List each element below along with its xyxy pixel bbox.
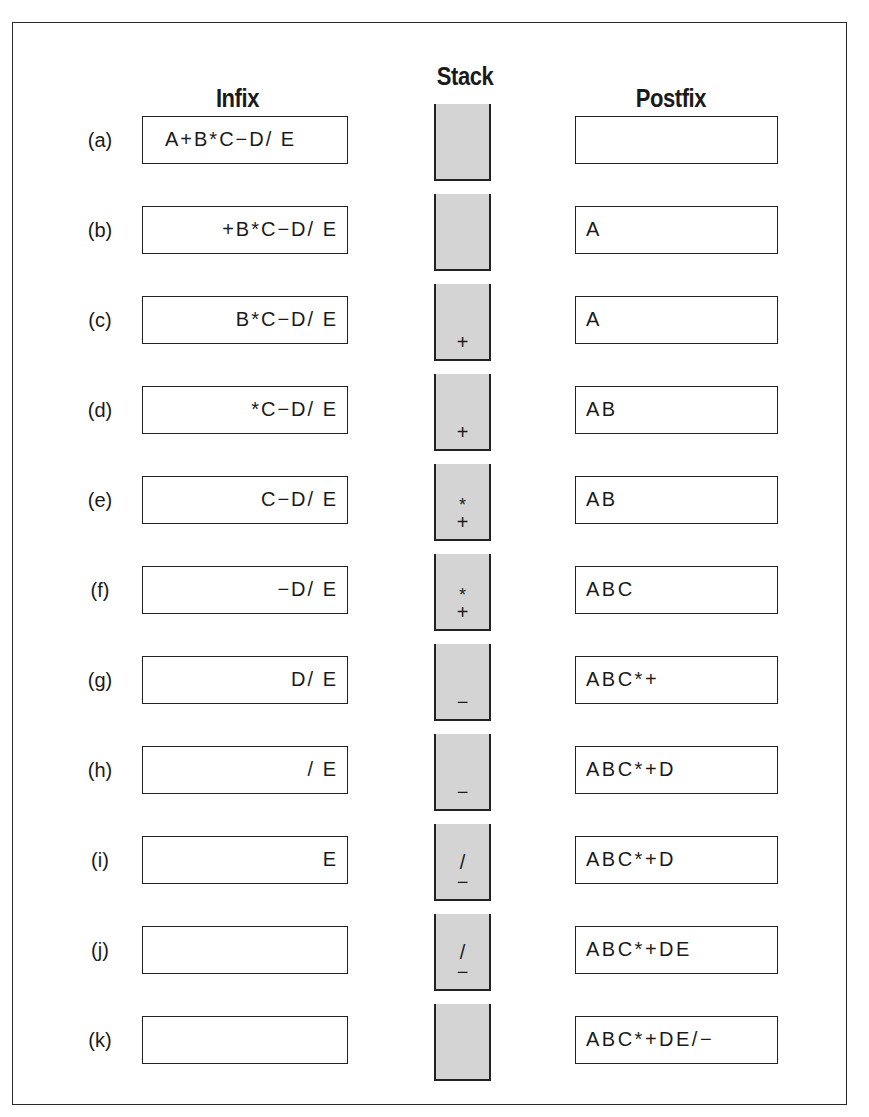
stack-container: *+ bbox=[434, 464, 491, 541]
postfix-box: AB bbox=[575, 476, 778, 524]
step-row: (h)/ E−ABC*+D bbox=[0, 746, 869, 794]
stack-item: / bbox=[460, 853, 466, 873]
infix-box: B*C−D/ E bbox=[142, 296, 348, 344]
stack-container: /− bbox=[434, 914, 491, 991]
infix-box bbox=[142, 926, 348, 974]
infix-box: *C−D/ E bbox=[142, 386, 348, 434]
step-row: (c)B*C−D/ E+A bbox=[0, 296, 869, 344]
stack-item: / bbox=[460, 943, 466, 963]
stack-item: + bbox=[457, 603, 469, 623]
postfix-box: A bbox=[575, 296, 778, 344]
step-label: (i) bbox=[80, 836, 120, 884]
stack-container: + bbox=[434, 374, 491, 451]
stack-column-header: Stack bbox=[437, 62, 494, 91]
postfix-box: ABC*+DE/− bbox=[575, 1016, 778, 1064]
step-row: (g)D/ E−ABC*+ bbox=[0, 656, 869, 704]
infix-box: / E bbox=[142, 746, 348, 794]
step-row: (a)A+B*C−D/ E bbox=[0, 116, 869, 164]
stack-item: − bbox=[457, 783, 469, 803]
stack-item: + bbox=[457, 513, 469, 533]
step-row: (e)C−D/ E*+AB bbox=[0, 476, 869, 524]
step-label: (f) bbox=[80, 566, 120, 614]
postfix-box bbox=[575, 116, 778, 164]
stack-item: + bbox=[457, 333, 469, 353]
postfix-box: ABC*+DE bbox=[575, 926, 778, 974]
stack-container bbox=[434, 104, 491, 181]
step-row: (d)*C−D/ E+AB bbox=[0, 386, 869, 434]
step-label: (e) bbox=[80, 476, 120, 524]
step-row: (k)ABC*+DE/− bbox=[0, 1016, 869, 1064]
stack-container bbox=[434, 194, 491, 271]
stack-item: − bbox=[457, 963, 469, 983]
stack-container bbox=[434, 1004, 491, 1081]
step-label: (d) bbox=[80, 386, 120, 434]
stack-item: − bbox=[457, 873, 469, 893]
step-row: (f)−D/ E*+ABC bbox=[0, 566, 869, 614]
stack-item: − bbox=[457, 693, 469, 713]
infix-box bbox=[142, 1016, 348, 1064]
stack-container: + bbox=[434, 284, 491, 361]
stack-item: + bbox=[457, 423, 469, 443]
infix-box: −D/ E bbox=[142, 566, 348, 614]
step-label: (k) bbox=[80, 1016, 120, 1064]
infix-box: E bbox=[142, 836, 348, 884]
infix-column-header: Infix bbox=[216, 84, 259, 113]
infix-box: D/ E bbox=[142, 656, 348, 704]
step-label: (a) bbox=[80, 116, 120, 164]
infix-box: +B*C−D/ E bbox=[142, 206, 348, 254]
postfix-box: ABC bbox=[575, 566, 778, 614]
stack-container: *+ bbox=[434, 554, 491, 631]
postfix-column-header: Postfix bbox=[636, 84, 706, 113]
postfix-box: ABC*+D bbox=[575, 836, 778, 884]
step-row: (i)E/−ABC*+D bbox=[0, 836, 869, 884]
stack-container: − bbox=[434, 734, 491, 811]
postfix-box: A bbox=[575, 206, 778, 254]
postfix-box: ABC*+D bbox=[575, 746, 778, 794]
step-label: (g) bbox=[80, 656, 120, 704]
stack-container: /− bbox=[434, 824, 491, 901]
infix-box: C−D/ E bbox=[142, 476, 348, 524]
postfix-box: ABC*+ bbox=[575, 656, 778, 704]
stack-container: − bbox=[434, 644, 491, 721]
step-label: (c) bbox=[80, 296, 120, 344]
step-label: (h) bbox=[80, 746, 120, 794]
postfix-box: AB bbox=[575, 386, 778, 434]
step-row: (j)/−ABC*+DE bbox=[0, 926, 869, 974]
step-label: (j) bbox=[80, 926, 120, 974]
infix-box: A+B*C−D/ E bbox=[142, 116, 348, 164]
step-row: (b)+B*C−D/ EA bbox=[0, 206, 869, 254]
step-label: (b) bbox=[80, 206, 120, 254]
